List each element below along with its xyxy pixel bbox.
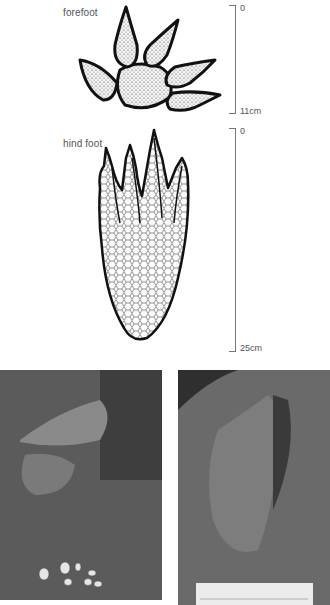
forefoot-scale-top: 0 [240, 3, 245, 13]
crocodile-nest-photo [0, 370, 162, 600]
forefoot-scale-bottom: 11cm [240, 106, 261, 116]
hind-foot-scale-bar [229, 128, 236, 352]
hind-foot-scale-top: 0 [240, 126, 245, 136]
footprint-photo [178, 370, 330, 605]
hind-foot-scale-bottom: 25cm [240, 343, 262, 353]
forefoot-scale-bar [229, 5, 236, 114]
forefoot-illustration [75, 5, 225, 115]
hind-foot-illustration [92, 128, 217, 353]
